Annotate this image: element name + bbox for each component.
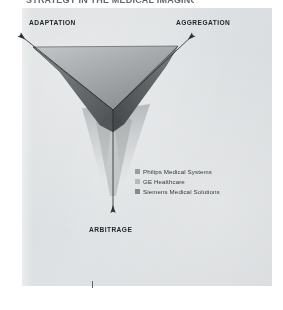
legend: Philips Medical Systems GE Healthcare Si…	[135, 167, 220, 197]
axis-label-adaptation: ADAPTATION	[29, 19, 76, 26]
legend-label-philips: Philips Medical Systems	[143, 168, 212, 175]
strategy-triangle-diagram	[0, 0, 283, 310]
axis-label-aggregation: AGGREGATION	[176, 19, 230, 26]
legend-swatch-ge	[135, 179, 140, 184]
legend-swatch-siemens	[135, 189, 140, 194]
pyramid-faces	[33, 46, 178, 132]
legend-label-siemens: Siemens Medical Solutions	[143, 188, 220, 195]
axis-label-arbitrage: ARBITRAGE	[89, 226, 132, 233]
legend-swatch-philips	[135, 169, 140, 174]
legend-item-ge: GE Healthcare	[135, 177, 220, 186]
legend-item-siemens: Siemens Medical Solutions	[135, 187, 220, 196]
page-bottom-tick-mark	[92, 281, 93, 288]
legend-item-philips: Philips Medical Systems	[135, 167, 220, 176]
legend-label-ge: GE Healthcare	[143, 178, 185, 185]
